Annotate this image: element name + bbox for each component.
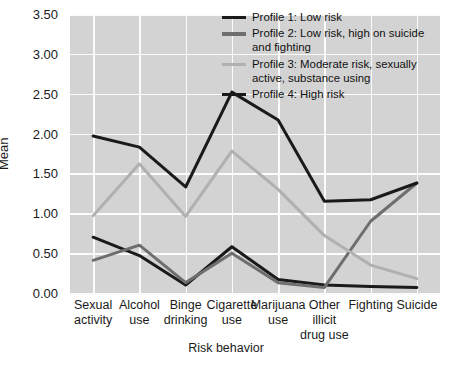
y-tick-label: 2.50 bbox=[0, 86, 58, 101]
legend-label: Profile 3: Moderate risk, sexually activ… bbox=[252, 58, 434, 86]
legend-label: Profile 2: Low risk, high on suicide and… bbox=[252, 27, 434, 55]
series-line-4 bbox=[93, 92, 417, 201]
x-tick-label: Suicide bbox=[379, 298, 452, 313]
y-tick-label: 1.00 bbox=[0, 206, 58, 221]
legend-swatch-icon bbox=[222, 16, 246, 19]
y-tick-label: 3.00 bbox=[0, 46, 58, 61]
y-tick-label: 3.50 bbox=[0, 7, 58, 22]
legend-label: Profile 1: Low risk bbox=[252, 11, 342, 25]
legend-swatch-icon bbox=[222, 93, 246, 96]
legend-item-3: Profile 3: Moderate risk, sexually activ… bbox=[222, 58, 434, 86]
legend: Profile 1: Low riskProfile 2: Low risk, … bbox=[222, 11, 434, 104]
legend-item-4: Profile 4: High risk bbox=[222, 88, 434, 102]
y-tick-label: 0.50 bbox=[0, 246, 58, 261]
legend-swatch-icon bbox=[222, 63, 246, 66]
legend-item-2: Profile 2: Low risk, high on suicide and… bbox=[222, 27, 434, 55]
gridline-horizontal bbox=[70, 293, 440, 295]
line-chart: 0.000.501.001.502.002.503.003.50 Mean Se… bbox=[0, 0, 452, 365]
y-tick-label: 0.00 bbox=[0, 286, 58, 301]
legend-label: Profile 4: High risk bbox=[252, 88, 344, 102]
x-axis-label: Risk behavior bbox=[0, 341, 452, 355]
legend-item-1: Profile 1: Low risk bbox=[222, 11, 434, 25]
y-axis-label: Mean bbox=[0, 137, 11, 170]
legend-swatch-icon bbox=[222, 32, 246, 35]
series-line-3 bbox=[93, 151, 417, 279]
